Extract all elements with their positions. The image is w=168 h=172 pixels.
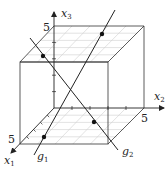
point-g2-upper <box>41 54 45 58</box>
x1-axis-label: x1 <box>4 154 15 168</box>
point-g1-upper <box>100 32 104 36</box>
x3-tick-label-5: 5 <box>43 21 50 34</box>
x2-axis-label: x2 <box>154 90 165 104</box>
diagram-figure: x3 5 x2 5 5 x1 g1 g2 <box>0 0 168 172</box>
x3-axis-label: x3 <box>61 7 72 21</box>
point-g2-lower <box>92 120 96 124</box>
x1-tick-label-5: 5 <box>8 133 15 146</box>
point-g1-lower <box>42 135 46 139</box>
g2-label: g2 <box>122 145 134 159</box>
x2-tick-label-5: 5 <box>141 112 148 125</box>
g1-label: g1 <box>37 150 49 164</box>
cube <box>20 26 144 144</box>
coordinate-system-svg: x3 5 x2 5 5 x1 g1 g2 <box>0 0 168 172</box>
